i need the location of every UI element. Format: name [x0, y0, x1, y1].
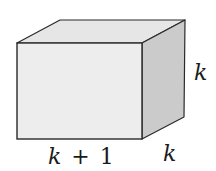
prism-front-face	[17, 43, 142, 139]
length-label: k + 1	[48, 144, 114, 169]
depth-label: k	[163, 141, 176, 166]
length-label-variable: k	[48, 144, 61, 169]
length-label-operator: +	[71, 144, 89, 169]
rectangular-prism-diagram: k k k + 1	[0, 0, 216, 171]
length-label-constant: 1	[100, 144, 114, 169]
height-label: k	[194, 60, 207, 85]
